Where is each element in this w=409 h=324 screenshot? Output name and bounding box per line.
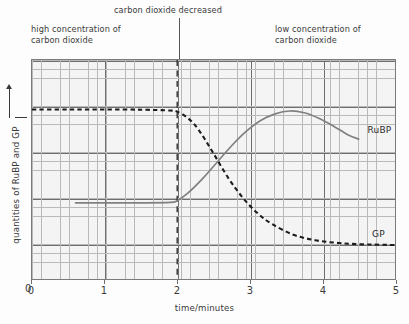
y-axis-title: quantities of RuBP and GP [11,85,21,285]
x-tick-0 [31,280,32,284]
x-tick-label-5: 5 [393,285,399,296]
x-tick-label-0: 0 [28,285,34,296]
curve-layer [32,60,395,280]
chart-figure: high concentration of carbon dioxide car… [0,0,409,324]
series-line-rubp [76,111,359,203]
x-axis-title: time/minutes [0,303,409,313]
x-tick-3 [250,280,251,284]
annotation-high-co2: high concentration of carbon dioxide [31,24,121,46]
x-tick-label-1: 1 [101,285,107,296]
x-tick-5 [396,280,397,284]
plot-area [31,59,396,280]
series-label-gp: GP [372,229,385,239]
x-tick-label-4: 4 [320,285,326,296]
x-tick-label-3: 3 [247,285,253,296]
y-axis-arrow-icon [9,88,10,118]
x-tick-4 [323,280,324,284]
x-tick-label-2: 2 [174,285,180,296]
series-label-rubp: RuBP [368,125,392,135]
x-tick-2 [177,280,178,284]
event-marker-stem [179,18,180,59]
x-tick-1 [104,280,105,284]
x-axis-ticks [31,280,396,285]
annotation-low-co2: low concentration of carbon dioxide [275,24,361,46]
annotation-event-label: carbon dioxide decreased [114,5,222,16]
